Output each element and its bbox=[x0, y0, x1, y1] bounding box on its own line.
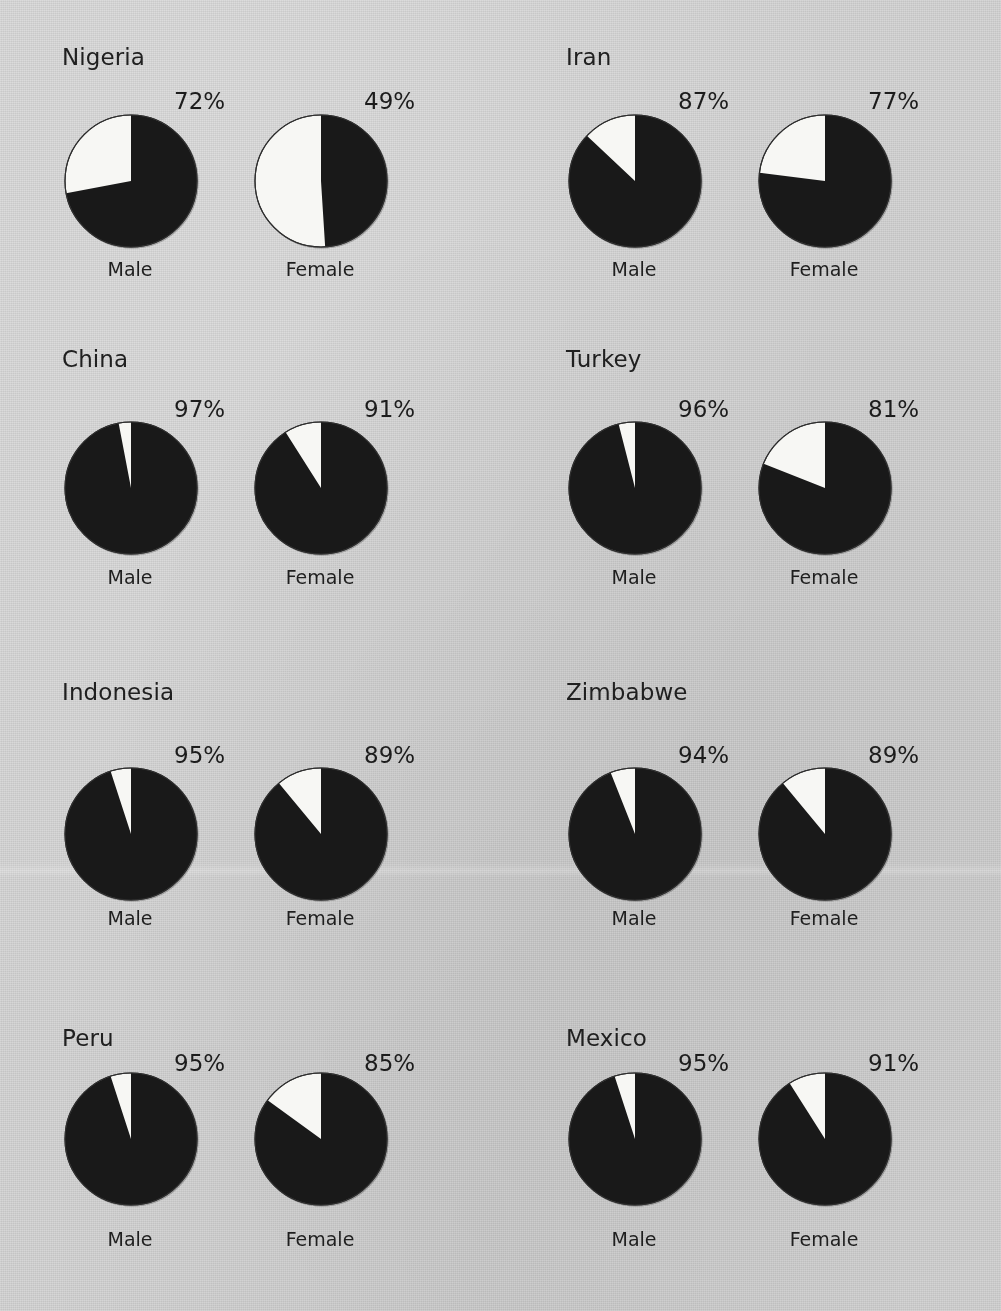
pie-svg-mexico-male bbox=[568, 1072, 702, 1206]
pie-filled-slice bbox=[321, 115, 387, 247]
country-title-nigeria: Nigeria bbox=[62, 44, 145, 70]
pie-svg-turkey-female bbox=[758, 421, 892, 555]
pie-filled-slice bbox=[569, 1073, 701, 1205]
sex-label-iran-female: Female bbox=[735, 258, 913, 280]
pie-chart-indonesia-female bbox=[254, 767, 388, 901]
percent-label-turkey-female: 81% bbox=[868, 396, 919, 422]
pie-filled-slice bbox=[255, 768, 387, 900]
pie-filled-slice bbox=[569, 768, 701, 900]
percent-label-china-male: 97% bbox=[174, 396, 225, 422]
pie-svg-mexico-female bbox=[758, 1072, 892, 1206]
country-title-turkey: Turkey bbox=[566, 346, 641, 372]
pie-filled-slice bbox=[255, 422, 387, 554]
percent-label-china-female: 91% bbox=[364, 396, 415, 422]
pie-chart-nigeria-female bbox=[254, 114, 388, 248]
pie-chart-turkey-male bbox=[568, 421, 702, 555]
pie-chart-zimbabwe-male bbox=[568, 767, 702, 901]
pie-svg-peru-female bbox=[254, 1072, 388, 1206]
percent-label-iran-male: 87% bbox=[678, 88, 729, 114]
pie-filled-slice bbox=[65, 1073, 197, 1205]
percent-label-zimbabwe-female: 89% bbox=[868, 742, 919, 768]
pie-svg-nigeria-female bbox=[254, 114, 388, 248]
sex-label-mexico-female: Female bbox=[735, 1228, 913, 1250]
percent-label-nigeria-male: 72% bbox=[174, 88, 225, 114]
pie-chart-zimbabwe-female bbox=[758, 767, 892, 901]
pie-filled-slice bbox=[65, 422, 197, 554]
country-title-china: China bbox=[62, 346, 128, 372]
country-title-indonesia: Indonesia bbox=[62, 679, 174, 705]
pie-svg-iran-female bbox=[758, 114, 892, 248]
sex-label-zimbabwe-male: Male bbox=[545, 907, 723, 929]
country-title-iran: Iran bbox=[566, 44, 611, 70]
sex-label-turkey-female: Female bbox=[735, 566, 913, 588]
percent-label-iran-female: 77% bbox=[868, 88, 919, 114]
pie-chart-mexico-female bbox=[758, 1072, 892, 1206]
percent-label-indonesia-male: 95% bbox=[174, 742, 225, 768]
country-title-zimbabwe: Zimbabwe bbox=[566, 679, 688, 705]
pie-svg-indonesia-male bbox=[64, 767, 198, 901]
sex-label-indonesia-male: Male bbox=[41, 907, 219, 929]
pie-chart-nigeria-male bbox=[64, 114, 198, 248]
sex-label-china-female: Female bbox=[231, 566, 409, 588]
pie-svg-indonesia-female bbox=[254, 767, 388, 901]
percent-label-nigeria-female: 49% bbox=[364, 88, 415, 114]
pie-chart-mexico-male bbox=[568, 1072, 702, 1206]
pie-svg-turkey-male bbox=[568, 421, 702, 555]
percent-label-indonesia-female: 89% bbox=[364, 742, 415, 768]
sex-label-zimbabwe-female: Female bbox=[735, 907, 913, 929]
percent-label-turkey-male: 96% bbox=[678, 396, 729, 422]
pie-filled-slice bbox=[569, 422, 701, 554]
sex-label-turkey-male: Male bbox=[545, 566, 723, 588]
pie-svg-zimbabwe-male bbox=[568, 767, 702, 901]
pie-chart-indonesia-male bbox=[64, 767, 198, 901]
percent-label-zimbabwe-male: 94% bbox=[678, 742, 729, 768]
pie-svg-zimbabwe-female bbox=[758, 767, 892, 901]
pie-filled-slice bbox=[65, 768, 197, 900]
country-title-peru: Peru bbox=[62, 1025, 114, 1051]
pie-filled-slice bbox=[759, 1073, 891, 1205]
pie-chart-turkey-female bbox=[758, 421, 892, 555]
sex-label-nigeria-female: Female bbox=[231, 258, 409, 280]
pie-svg-peru-male bbox=[64, 1072, 198, 1206]
pie-chart-china-male bbox=[64, 421, 198, 555]
pie-chart-peru-male bbox=[64, 1072, 198, 1206]
pie-svg-china-female bbox=[254, 421, 388, 555]
pie-chart-china-female bbox=[254, 421, 388, 555]
pie-chart-figure: Nigeria72%Male49%FemaleIran87%Male77%Fem… bbox=[0, 0, 1001, 1311]
pie-svg-nigeria-male bbox=[64, 114, 198, 248]
sex-label-china-male: Male bbox=[41, 566, 219, 588]
sex-label-indonesia-female: Female bbox=[231, 907, 409, 929]
country-title-mexico: Mexico bbox=[566, 1025, 647, 1051]
sex-label-iran-male: Male bbox=[545, 258, 723, 280]
pie-chart-peru-female bbox=[254, 1072, 388, 1206]
sex-label-peru-male: Male bbox=[41, 1228, 219, 1250]
pie-filled-slice bbox=[759, 768, 891, 900]
pie-chart-iran-female bbox=[758, 114, 892, 248]
pie-chart-iran-male bbox=[568, 114, 702, 248]
pie-svg-iran-male bbox=[568, 114, 702, 248]
pie-svg-china-male bbox=[64, 421, 198, 555]
sex-label-mexico-male: Male bbox=[545, 1228, 723, 1250]
sex-label-peru-female: Female bbox=[231, 1228, 409, 1250]
sex-label-nigeria-male: Male bbox=[41, 258, 219, 280]
